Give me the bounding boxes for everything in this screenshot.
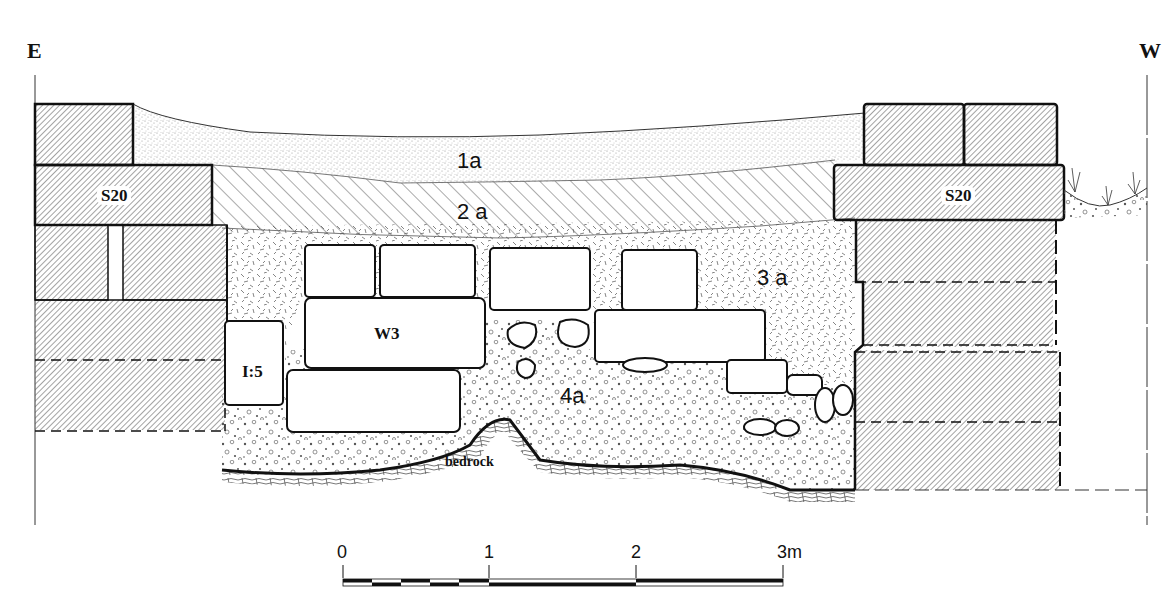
- layer-3a-label: 3 a: [757, 267, 788, 289]
- orientation-east-label: E: [27, 40, 42, 62]
- orientation-west-label: W: [1139, 40, 1161, 62]
- wall-s20-right-label: S20: [941, 186, 975, 205]
- scale-tick-0: 0: [337, 543, 347, 561]
- stone-i5-label: I:5: [238, 362, 267, 381]
- layer-1a-label: 1a: [457, 150, 481, 172]
- layer-2a-label: 2 a: [457, 201, 488, 223]
- scale-bar: [343, 565, 783, 586]
- wall-s20-right: [834, 104, 1147, 490]
- wall-w3-label: W3: [370, 324, 404, 343]
- layer-4a-label: 4a: [560, 385, 584, 407]
- bedrock-label: bedrock: [445, 455, 494, 469]
- wall-s20-left-label: S20: [97, 186, 131, 205]
- scale-tick-2: 2: [631, 543, 641, 561]
- scale-tick-3m: 3m: [777, 543, 802, 561]
- scale-tick-1: 1: [484, 543, 494, 561]
- section-drawing: [0, 0, 1176, 615]
